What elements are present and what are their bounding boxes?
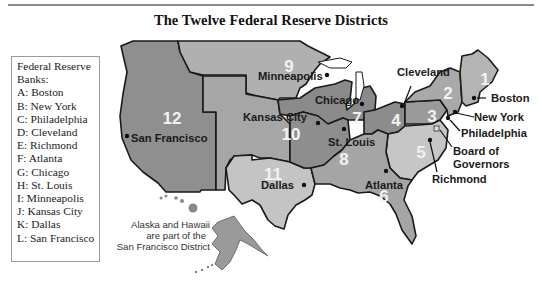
district-2-number: 2 [443, 84, 452, 103]
city-label-dallas: Dallas [261, 179, 294, 191]
city-label-kansas-city: Kansas City [243, 111, 308, 123]
district-10-number: 10 [282, 125, 301, 144]
city-dot-philadelphia [446, 116, 450, 120]
note-line-1: Alaska and Hawaii [131, 219, 210, 230]
city-dot-dallas [302, 183, 306, 187]
city-dot-boston [472, 96, 476, 100]
city-label-philadelphia: Philadelphia [461, 127, 528, 139]
district-4-number: 4 [391, 111, 401, 130]
district-3-number: 3 [427, 107, 436, 126]
district-8-number: 8 [339, 150, 348, 169]
city-label-richmond: Richmond [432, 173, 487, 185]
city-dot-st-louis [342, 127, 346, 131]
city-dot-richmond [428, 138, 432, 142]
alaska-region [212, 216, 268, 270]
district-7-number: 7 [352, 109, 361, 128]
city-dot-minneapolis [325, 73, 329, 77]
city-label-cleveland: Cleveland [397, 66, 450, 78]
city-dot-kansas-city [316, 121, 320, 125]
city-label-chicago: Chicago [315, 94, 359, 106]
note-line-2: are part of the [146, 230, 206, 241]
city-dot-atlanta [384, 169, 388, 173]
city-label-atlanta: Atlanta [365, 179, 404, 191]
district-12-number: 12 [163, 109, 182, 128]
city-label-st-louis: St. Louis [328, 136, 375, 148]
city-dot-san-francisco [125, 134, 129, 138]
city-label-san-francisco: San Francisco [131, 132, 208, 144]
us-map: 1 2 3 4 5 6 7 8 9 10 11 12 San Francisco… [0, 0, 542, 285]
city-label-minneapolis: Minneapolis [258, 70, 323, 82]
hawaii-islands [160, 195, 198, 213]
district-1-number: 1 [480, 70, 489, 89]
city-label-new-york: New York [474, 111, 525, 123]
label-board-of-governors: Board of [453, 145, 499, 157]
city-dot-cleveland [400, 104, 404, 108]
label-board-of-governors-2: Governors [453, 158, 510, 170]
district-5-number: 5 [416, 143, 425, 162]
city-dot-chicago [360, 102, 364, 106]
note-line-3: San Francisco District [117, 241, 211, 252]
board-of-governors-marker [434, 126, 439, 131]
city-label-boston: Boston [491, 92, 530, 104]
aleutian-islands [195, 264, 213, 273]
